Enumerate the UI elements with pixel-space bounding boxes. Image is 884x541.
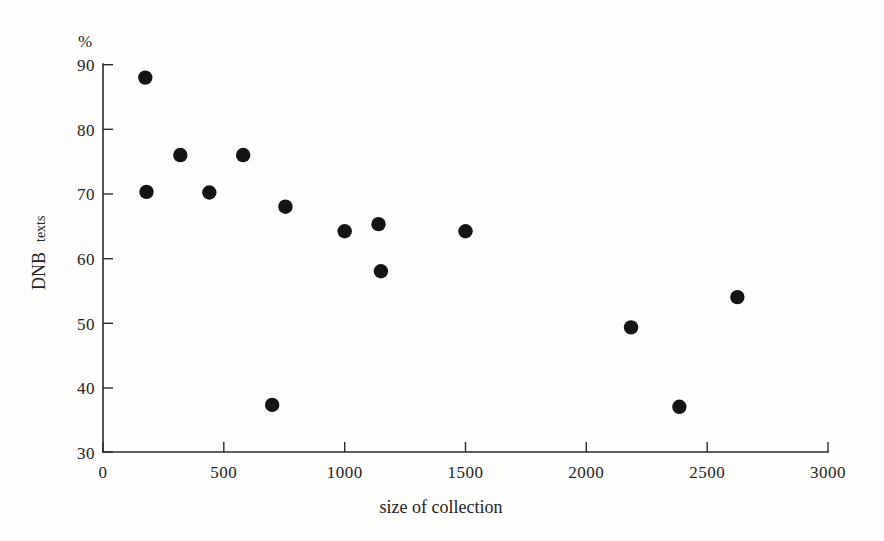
data-point xyxy=(374,264,388,278)
y-axis-title-main: DNB xyxy=(29,252,49,290)
y-tick-label-30: 30 xyxy=(77,444,95,463)
y-tick-label-50: 50 xyxy=(77,315,95,334)
data-point xyxy=(202,185,216,199)
y-tick-label-40: 40 xyxy=(77,379,95,398)
data-point xyxy=(278,200,292,214)
x-axis-ticks xyxy=(103,442,828,452)
x-axis-tick-labels: 0 500 1000 1500 2000 2500 3000 xyxy=(99,463,847,482)
x-tick-label-1000: 1000 xyxy=(327,463,363,482)
y-tick-label-80: 80 xyxy=(77,121,95,140)
x-tick-label-3000: 3000 xyxy=(810,463,846,482)
data-point xyxy=(138,70,152,84)
x-tick-label-500: 500 xyxy=(210,463,237,482)
data-points-layer xyxy=(138,70,744,414)
x-tick-label-1500: 1500 xyxy=(448,463,484,482)
data-point xyxy=(173,148,187,162)
data-point xyxy=(265,398,279,412)
data-point xyxy=(371,217,385,231)
y-tick-label-90: 90 xyxy=(77,56,95,75)
scatter-chart-figure: % DNB texts size of collection 90 80 70 … xyxy=(0,0,884,541)
data-point xyxy=(730,290,744,304)
data-point xyxy=(337,224,351,238)
y-tick-label-70: 70 xyxy=(77,185,95,204)
y-axis-unit-label: % xyxy=(78,32,92,51)
data-point xyxy=(236,148,250,162)
x-tick-label-2500: 2500 xyxy=(689,463,725,482)
y-axis-title: DNB texts xyxy=(29,216,49,290)
data-point xyxy=(624,320,638,334)
data-point xyxy=(672,400,686,414)
x-tick-label-2000: 2000 xyxy=(568,463,604,482)
y-axis-title-sub: texts xyxy=(33,216,48,242)
data-point xyxy=(458,224,472,238)
chart-canvas: % DNB texts size of collection 90 80 70 … xyxy=(0,0,884,541)
y-axis-ticks xyxy=(103,65,113,452)
data-point xyxy=(139,185,153,199)
x-axis-title: size of collection xyxy=(380,497,503,517)
y-axis-tick-labels: 90 80 70 60 50 40 30 xyxy=(77,56,95,463)
x-tick-label-0: 0 xyxy=(99,463,108,482)
y-tick-label-60: 60 xyxy=(77,250,95,269)
